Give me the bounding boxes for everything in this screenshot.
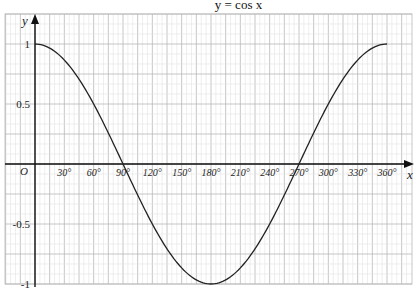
- y-tick-label: -1: [21, 278, 30, 290]
- x-tick-label: 300°: [318, 167, 338, 178]
- x-tick-label: 180°: [202, 167, 221, 178]
- x-tick-label: 360°: [377, 167, 397, 178]
- x-tick-label: 60°: [87, 167, 101, 178]
- x-tick-label: 30°: [56, 167, 71, 178]
- x-tick-label: 120°: [143, 167, 162, 178]
- y-tick-label: -0.5: [13, 218, 31, 230]
- x-axis-label: x: [406, 167, 413, 182]
- x-tick-label: 270°: [290, 167, 309, 178]
- y-axis-label: y: [20, 13, 28, 28]
- origin-label: O: [20, 165, 28, 177]
- x-tick-label: 90°: [116, 167, 130, 178]
- y-tick-label: 1: [25, 38, 31, 50]
- y-tick-label: 0.5: [16, 98, 30, 110]
- x-tick-label: 210°: [231, 167, 250, 178]
- grid: [5, 14, 412, 284]
- x-tick-label: 240°: [260, 167, 279, 178]
- x-tick-label: 330°: [347, 167, 367, 178]
- x-tick-label: 150°: [172, 167, 191, 178]
- y-axis-arrow-icon: [31, 14, 39, 24]
- cosine-chart: 30°60°90°120°150°180°210°240°270°300°330…: [0, 0, 417, 291]
